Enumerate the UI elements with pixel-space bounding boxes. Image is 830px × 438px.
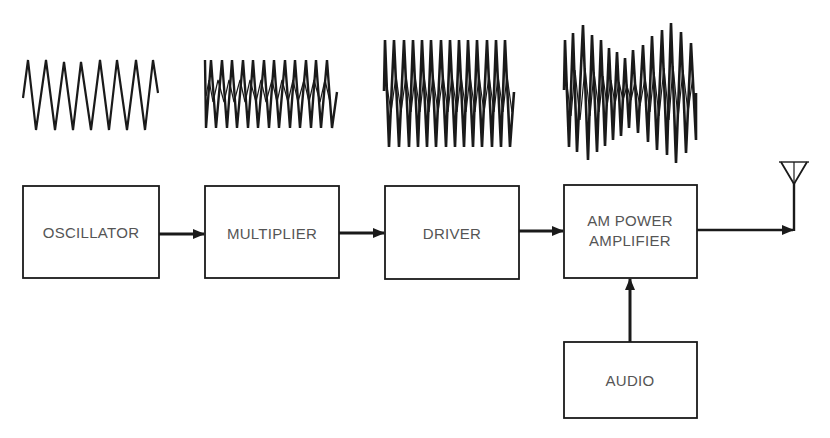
audio-label: AUDIO — [605, 372, 654, 389]
waveform-driver — [384, 40, 514, 147]
antenna-icon — [779, 162, 809, 231]
waveform-am-modulated — [564, 23, 696, 163]
oscillator-label: OSCILLATOR — [43, 224, 140, 241]
block-driver: DRIVER — [385, 186, 519, 279]
am-power-amplifier-label-line1: AM POWER — [587, 212, 673, 229]
block-multiplier: MULTIPLIER — [205, 186, 339, 278]
am-power-amplifier-label-line2: AMPLIFIER — [589, 232, 671, 249]
block-am-power-amplifier: AM POWER AMPLIFIER — [564, 185, 697, 278]
block-oscillator: OSCILLATOR — [23, 186, 159, 278]
block-audio: AUDIO — [564, 342, 697, 418]
multiplier-label: MULTIPLIER — [227, 225, 317, 242]
driver-label: DRIVER — [423, 225, 481, 242]
waveform-oscillator — [23, 60, 158, 130]
waveform-multiplier — [205, 60, 337, 128]
am-transmitter-diagram: OSCILLATOR MULTIPLIER DRIVER AM POWER AM… — [0, 0, 830, 438]
